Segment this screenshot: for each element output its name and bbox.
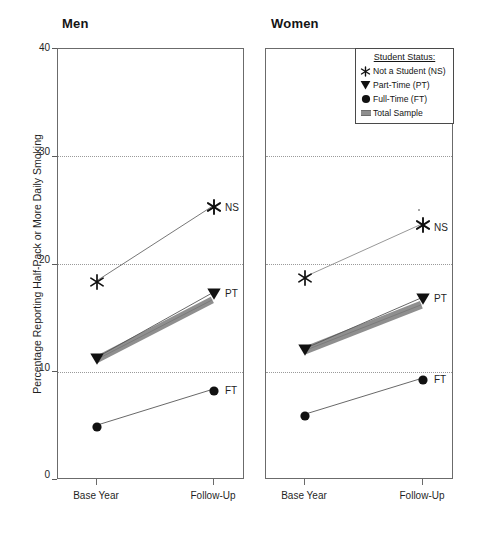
data-point-ns-women-base (297, 270, 314, 287)
legend-item-total-sample: Total Sample (359, 106, 450, 120)
legend-label-not-a-student: Not a Student (NS) (372, 66, 446, 76)
series-line-total-women-edge (305, 305, 422, 351)
data-point-ns-women-follow (415, 217, 432, 234)
plot-area-men: NS PT FT (57, 48, 244, 479)
data-point-ns-men-base (89, 274, 106, 291)
y-tick-label-20: 20 (24, 254, 50, 265)
series-line-ns-men (97, 206, 213, 281)
series-label-ns-women: NS (434, 222, 448, 233)
data-point-ft-men-follow (209, 386, 220, 397)
triangle-marker-icon (359, 80, 372, 90)
legend-item-full-time: Full-Time (FT) (359, 92, 450, 106)
series-line-ft-women (305, 378, 422, 414)
data-point-pt-women-base (298, 344, 313, 357)
series-label-ns-men: NS (225, 202, 239, 213)
series-line-pt-women (305, 298, 422, 349)
panel-title-men: Men (62, 16, 89, 31)
series-line-ft-men (97, 389, 213, 425)
x-tick-label-men-follow: Follow-Up (173, 490, 253, 501)
legend-label-full-time: Full-Time (FT) (372, 94, 427, 104)
data-point-ft-men-base (92, 422, 103, 433)
x-tick-mark-men-base (96, 479, 97, 485)
data-point-pt-men-base (90, 353, 105, 366)
series-label-ft-men: FT (225, 385, 237, 396)
data-point-pt-men-follow (207, 288, 222, 301)
y-tick-label-40: 40 (24, 42, 50, 53)
stray-speck (418, 209, 420, 211)
x-tick-mark-women-follow (422, 479, 423, 485)
legend: Student Status: Not a Student (NS) Part-… (355, 48, 454, 124)
series-label-ft-women: FT (434, 374, 446, 385)
series-line-ns-women (305, 224, 422, 277)
figure-root: Men Women Percentage Reporting Half-Pack… (0, 0, 484, 535)
x-tick-label-women-follow: Follow-Up (382, 490, 462, 501)
series-label-pt-men: PT (225, 288, 238, 299)
star-marker-icon (359, 66, 372, 77)
x-tick-label-women-base: Base Year (264, 490, 344, 501)
y-tick-mark-0 (52, 479, 57, 480)
data-point-ft-women-base (300, 411, 311, 422)
data-point-ns-men-follow (206, 199, 223, 216)
y-tick-label-30: 30 (24, 146, 50, 157)
band-swatch-icon (359, 110, 372, 116)
y-tick-label-10: 10 (24, 362, 50, 373)
x-tick-mark-men-follow (213, 479, 214, 485)
legend-item-part-time: Part-Time (PT) (359, 78, 450, 92)
series-lines-men (58, 49, 243, 478)
circle-marker-icon (359, 94, 372, 104)
legend-label-total-sample: Total Sample (372, 108, 423, 118)
series-label-pt-women: PT (434, 293, 447, 304)
series-line-pt-men (97, 293, 213, 358)
y-tick-label-0: 0 (24, 469, 50, 480)
data-point-pt-women-follow (416, 293, 431, 306)
legend-item-not-a-student: Not a Student (NS) (359, 64, 450, 78)
panel-title-women: Women (271, 16, 319, 31)
x-tick-label-men-base: Base Year (56, 490, 136, 501)
x-tick-mark-women-base (304, 479, 305, 485)
series-line-total-men-edge (97, 300, 213, 360)
legend-title: Student Status: (359, 52, 450, 62)
data-point-ft-women-follow (418, 375, 429, 386)
legend-label-part-time: Part-Time (PT) (372, 80, 430, 90)
